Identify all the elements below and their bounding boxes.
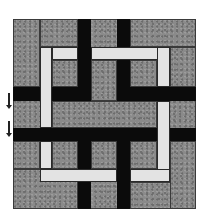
gray-patch-lower-right-inner: [130, 141, 157, 169]
light-bar-left-vertical-a: [40, 47, 52, 128]
gray-patch-upper-left-inner: [52, 60, 78, 87]
gray-patch-upper-center: [91, 60, 117, 101]
gray-patch-top-right: [130, 19, 196, 47]
gray-patch-right-lower: [170, 141, 196, 209]
light-bar-right-vertical-a: [157, 47, 170, 87]
black-bar-lower-right-vertical-over: [117, 169, 130, 182]
gray-patch-lower-left-inner: [52, 141, 78, 169]
gray-patch-upper-right-inner: [130, 60, 157, 87]
gray-patch-top-left: [13, 19, 40, 87]
gray-patch-top-mid-left: [40, 19, 78, 47]
quilt-block: [13, 19, 196, 209]
light-bar-left-vertical-b: [40, 141, 52, 169]
gray-patch-middle-band: [52, 101, 157, 128]
light-bar-bottom-horizontal-a: [40, 169, 117, 182]
down-arrow-icon-upper: [8, 93, 10, 106]
light-bar-bottom-horizontal-b: [130, 169, 170, 182]
down-arrow-icon-lower: [8, 121, 10, 134]
gray-patch-lower-center: [91, 141, 117, 169]
light-bar-top-horizontal-a: [52, 47, 78, 60]
gray-patch-left-lower: [13, 141, 40, 169]
gray-patch-right-upper: [170, 47, 196, 87]
